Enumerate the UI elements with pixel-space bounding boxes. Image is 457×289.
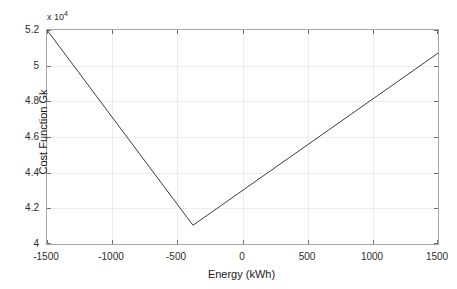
figure-canvas: x 104 -1500-1000-500050010001500 44.24.4… xyxy=(0,0,457,289)
x-axis-tick-label: -1000 xyxy=(98,251,124,262)
x-axis-tick-label: 500 xyxy=(299,251,316,262)
x-axis-tick-label: -1500 xyxy=(33,251,59,262)
y-axis-tick-label: 4.6 xyxy=(0,131,39,142)
x-axis-tick-label: 1500 xyxy=(426,251,448,262)
x-axis-tick-label: 1000 xyxy=(361,251,383,262)
x-axis-title: Energy (kWh) xyxy=(46,268,437,280)
data-series-layer xyxy=(47,30,438,244)
y-axis-tick-label: 4.8 xyxy=(0,95,39,106)
y-axis-tick-label: 4.4 xyxy=(0,167,39,178)
y-axis-exponent-label: x 104 xyxy=(47,12,68,22)
x-axis-tick-label: 0 xyxy=(239,251,245,262)
y-axis-title: Cost Function Gk xyxy=(37,25,49,239)
plot-area xyxy=(46,29,439,245)
line-series-cost-function xyxy=(47,30,438,225)
y-axis-tick-label: 5.2 xyxy=(0,24,39,35)
y-axis-tick-label: 5 xyxy=(0,60,39,71)
y-axis-tick-label: 4 xyxy=(0,238,39,249)
y-axis-exponent-mantissa: x 10 xyxy=(47,12,64,22)
y-axis-tick-label: 4.2 xyxy=(0,202,39,213)
y-axis-exponent-power: 4 xyxy=(64,10,68,17)
x-axis-tick-label: -500 xyxy=(166,251,186,262)
